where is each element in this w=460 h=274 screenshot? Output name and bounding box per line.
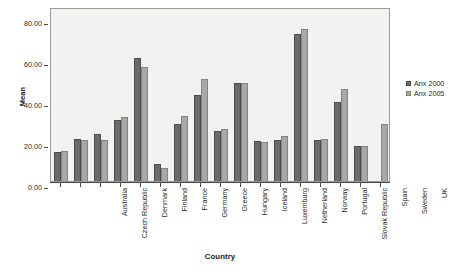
- bar-group: [94, 9, 108, 181]
- x-axis-tick-mark: [200, 183, 201, 187]
- chart-legend: Anx 2000Anx 2005: [406, 79, 444, 99]
- bar-chart: Mean 0.0020.0040.0060.0080.00 AustraliaC…: [0, 0, 460, 274]
- bar: [194, 95, 201, 181]
- bar: [221, 129, 228, 181]
- bar-group: [374, 9, 388, 181]
- y-axis-tick-label: 20.00: [8, 143, 42, 151]
- x-axis-tick-mark: [260, 183, 261, 187]
- x-axis-tick-label: Czech Republic: [141, 188, 149, 246]
- bar: [81, 140, 88, 181]
- bar: [61, 151, 68, 181]
- bar: [241, 83, 248, 181]
- x-axis-tick-mark: [100, 183, 101, 187]
- bar-group: [174, 9, 188, 181]
- x-axis-tick-mark: [340, 183, 341, 187]
- x-axis-tick-mark: [220, 183, 221, 187]
- bar: [114, 120, 121, 181]
- bar-group: [214, 9, 228, 181]
- x-axis-tick-label: Iceland: [281, 188, 289, 246]
- bar: [154, 164, 161, 181]
- bar: [161, 168, 168, 181]
- bar: [274, 140, 281, 181]
- y-axis-tick-mark: [44, 147, 48, 148]
- bar-group: [294, 9, 308, 181]
- bar: [314, 140, 321, 181]
- bar: [101, 140, 108, 181]
- y-axis-tick-label: 40.00: [8, 102, 42, 110]
- bar-group: [154, 9, 168, 181]
- x-axis-tick-mark: [160, 183, 161, 187]
- x-axis-tick-label: Greece: [241, 188, 249, 246]
- bar: [361, 146, 368, 181]
- x-axis-tick-label: UK: [441, 188, 449, 246]
- x-axis-tick-label: Spain: [401, 188, 409, 246]
- x-axis-tick-label: Germany: [221, 188, 229, 246]
- legend-label: Anx 2000: [414, 80, 444, 88]
- bar: [121, 117, 128, 181]
- y-axis-tick-mark: [44, 188, 48, 189]
- x-axis-tick-label: Norway: [341, 188, 349, 246]
- bar: [214, 131, 221, 181]
- legend-swatch: [406, 81, 411, 86]
- x-axis-tick-label: Sweden: [421, 188, 429, 246]
- x-axis-tick-mark: [280, 183, 281, 187]
- x-axis-tick-mark: [380, 183, 381, 187]
- bar: [261, 142, 268, 181]
- x-axis-tick-mark: [80, 183, 81, 187]
- bar-group: [254, 9, 268, 181]
- bar: [301, 29, 308, 182]
- bar: [294, 34, 301, 181]
- legend-item[interactable]: Anx 2005: [406, 89, 444, 98]
- y-axis-tick-mark: [44, 65, 48, 66]
- bar: [201, 79, 208, 181]
- bar: [254, 141, 261, 181]
- bar-group: [134, 9, 148, 181]
- bar: [141, 67, 148, 181]
- bars-layer: [51, 9, 389, 181]
- x-axis-tick-mark: [180, 183, 181, 187]
- x-axis-tick-label: Slovak Republic: [381, 188, 389, 246]
- bar: [174, 124, 181, 181]
- bar: [94, 134, 101, 181]
- bar: [381, 124, 388, 181]
- x-axis-tick-mark: [60, 183, 61, 187]
- x-axis-tick-label: Luxemburg: [301, 188, 309, 246]
- x-axis-tick-label: Portugal: [361, 188, 369, 246]
- bar-group: [334, 9, 348, 181]
- y-axis-tick-label: 80.00: [8, 20, 42, 28]
- bar-group: [74, 9, 88, 181]
- plot-area: [50, 8, 390, 182]
- x-axis-tick-mark: [320, 183, 321, 187]
- bar-group: [234, 9, 248, 181]
- bar: [134, 58, 141, 181]
- bar: [234, 83, 241, 181]
- bar-group: [114, 9, 128, 181]
- bar: [334, 102, 341, 181]
- x-axis-tick-mark: [140, 183, 141, 187]
- legend-item[interactable]: Anx 2000: [406, 79, 444, 88]
- bar: [354, 146, 361, 181]
- y-axis-tick-label: 60.00: [8, 61, 42, 69]
- x-axis-tick-label: Denmark: [161, 188, 169, 246]
- bar: [281, 136, 288, 181]
- bar-group: [54, 9, 68, 181]
- y-axis-tick-mark: [44, 24, 48, 25]
- bar-group: [314, 9, 328, 181]
- x-axis-tick-mark: [360, 183, 361, 187]
- bar-group: [354, 9, 368, 181]
- x-axis-tick-labels: AustraliaCzech RepublicDenmarkFinlandFra…: [50, 188, 390, 246]
- x-axis-tick-mark: [120, 183, 121, 187]
- x-axis-tick-mark: [300, 183, 301, 187]
- bar: [74, 139, 81, 181]
- bar: [181, 116, 188, 182]
- legend-label: Anx 2005: [414, 90, 444, 98]
- bar: [54, 152, 61, 181]
- x-axis-tick-label: Netherland: [321, 188, 329, 246]
- x-axis-tick-mark: [240, 183, 241, 187]
- bar: [341, 89, 348, 181]
- legend-swatch: [406, 91, 411, 96]
- x-axis-tick-label: Finland: [181, 188, 189, 246]
- bar-group: [194, 9, 208, 181]
- x-axis-tick-label: Hungary: [261, 188, 269, 246]
- bar: [321, 139, 328, 181]
